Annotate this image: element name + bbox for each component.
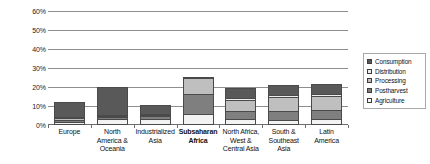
bar-segment[interactable] [54, 102, 85, 117]
bar-segment[interactable] [225, 88, 256, 98]
bar-segment[interactable] [311, 110, 342, 119]
bar-stack[interactable] [97, 87, 128, 125]
legend-item[interactable]: Distribution [367, 67, 422, 77]
legend-swatch-icon [367, 69, 372, 74]
x-axis-category-labels: EuropeNorthAmerica &OceaniaIndustrialize… [48, 128, 348, 164]
legend-label: Postharvest [375, 87, 408, 94]
bar-stack[interactable] [225, 88, 256, 125]
legend-label: Agriculture [375, 97, 404, 104]
bar-segment[interactable] [140, 105, 171, 114]
legend-swatch-icon [367, 88, 372, 93]
y-axis-tick-label: 60% [32, 8, 46, 15]
y-axis-tick-label: 50% [32, 27, 46, 34]
legend-swatch-icon [367, 98, 372, 103]
x-axis-label-latin-america: LatinAmerica [299, 128, 354, 145]
plot-area [48, 11, 348, 125]
bar-segment[interactable] [183, 94, 214, 114]
bar-stack[interactable] [183, 77, 214, 125]
legend-label: Distribution [375, 68, 406, 75]
stacked-bar-chart: 0%10%20%30%40%50%60% EuropeNorthAmerica … [0, 0, 430, 164]
bar-stack[interactable] [140, 105, 171, 125]
bar-stack[interactable] [54, 102, 85, 125]
bar-segment[interactable] [140, 119, 171, 125]
legend-item[interactable]: Consumption [367, 57, 422, 67]
bar-segment[interactable] [268, 97, 299, 111]
bar-segment[interactable] [225, 100, 256, 112]
y-axis-tick-label: 10% [32, 103, 46, 110]
legend-item[interactable]: Postharvest [367, 86, 422, 96]
bar-segment[interactable] [225, 119, 256, 125]
bar-stack[interactable] [311, 84, 342, 125]
bar-segment[interactable] [268, 111, 299, 120]
bar-segment[interactable] [183, 78, 214, 95]
y-axis-tick-label: 30% [32, 65, 46, 72]
bar-segment[interactable] [311, 84, 342, 94]
bar-stack[interactable] [268, 85, 299, 125]
bar-segment[interactable] [97, 87, 128, 115]
legend-item[interactable]: Processing [367, 76, 422, 86]
bar-segment[interactable] [311, 119, 342, 125]
legend-item[interactable]: Agriculture [367, 95, 422, 105]
bar-segment[interactable] [97, 119, 128, 125]
bar-segment[interactable] [268, 120, 299, 125]
chart-legend: ConsumptionDistributionProcessingPosthar… [363, 53, 426, 109]
y-axis-tick-label: 40% [32, 46, 46, 53]
legend-swatch-icon [367, 59, 372, 64]
legend-label: Consumption [375, 58, 412, 65]
bar-segment[interactable] [183, 114, 214, 125]
bar-segment[interactable] [225, 111, 256, 119]
bars-layer [48, 11, 348, 125]
bar-segment[interactable] [54, 122, 85, 125]
legend-label: Processing [375, 77, 406, 84]
y-axis-tick-label: 20% [32, 84, 46, 91]
bar-segment[interactable] [268, 85, 299, 95]
bar-segment[interactable] [311, 96, 342, 110]
legend-swatch-icon [367, 78, 372, 83]
